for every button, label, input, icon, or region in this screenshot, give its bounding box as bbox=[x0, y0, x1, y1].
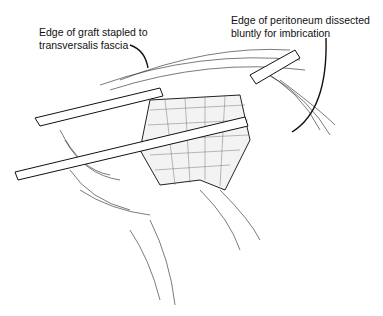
label-line: bluntly for imbrication bbox=[231, 27, 370, 40]
leader-line-right bbox=[292, 38, 326, 132]
illustration: Edge of graft stapled to transversalis f… bbox=[0, 0, 383, 316]
grasper-instrument bbox=[35, 88, 163, 126]
label-line: Edge of graft stapled to bbox=[39, 26, 148, 39]
label-line: transversalis fascia bbox=[39, 39, 148, 52]
graft-edge-label: Edge of graft stapled to transversalis f… bbox=[39, 26, 148, 52]
label-line: Edge of peritoneum dissected bbox=[231, 14, 370, 27]
peritoneum-edge-label: Edge of peritoneum dissected bluntly for… bbox=[231, 14, 370, 40]
